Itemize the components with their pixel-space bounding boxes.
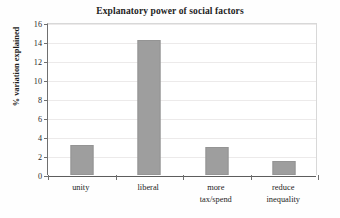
bar[interactable]: [273, 161, 296, 175]
x-axis-label: liberal: [115, 182, 183, 194]
y-tick-label: 4: [38, 134, 42, 143]
y-tick-label: 0: [38, 172, 42, 181]
bar-slot: [116, 24, 184, 175]
y-tick-label: 16: [34, 20, 42, 29]
y-tick-label: 2: [38, 153, 42, 162]
bar[interactable]: [70, 145, 93, 175]
y-tick-label: 8: [38, 96, 42, 105]
x-tick-mark: [183, 175, 184, 180]
y-tick-label: 14: [34, 39, 42, 48]
x-axis-label: reduceinequality: [250, 182, 318, 205]
x-axis-labels: unityliberalmoretax/spendreduceinequalit…: [47, 182, 317, 216]
x-axis-label-line: liberal: [115, 182, 183, 194]
gridline: [48, 176, 316, 177]
x-axis-label-line: unity: [47, 182, 115, 194]
bar-slot: [48, 24, 116, 175]
chart-title: Explanatory power of social factors: [0, 6, 340, 16]
x-axis-label: moretax/spend: [182, 182, 250, 205]
x-tick-mark: [48, 175, 49, 180]
x-tick-mark: [318, 175, 319, 180]
y-axis-title: % variation explained: [12, 7, 21, 127]
x-axis-label-line: tax/spend: [182, 194, 250, 206]
x-axis-label: unity: [47, 182, 115, 194]
x-axis-label-line: more: [182, 182, 250, 194]
bar-chart-figure: Explanatory power of social factors % va…: [0, 0, 340, 218]
x-axis-label-line: reduce: [250, 182, 318, 194]
y-tick-label: 10: [34, 77, 42, 86]
x-axis-label-line: inequality: [250, 194, 318, 206]
x-tick-mark: [116, 175, 117, 180]
bar[interactable]: [205, 147, 228, 175]
bar-slot: [251, 24, 319, 175]
y-tick-label: 6: [38, 115, 42, 124]
bars-layer: [48, 24, 316, 175]
plot-area: 0246810121416: [47, 23, 317, 175]
x-tick-mark: [251, 175, 252, 180]
bar-slot: [183, 24, 251, 175]
bar[interactable]: [138, 40, 161, 175]
y-tick-label: 12: [34, 58, 42, 67]
